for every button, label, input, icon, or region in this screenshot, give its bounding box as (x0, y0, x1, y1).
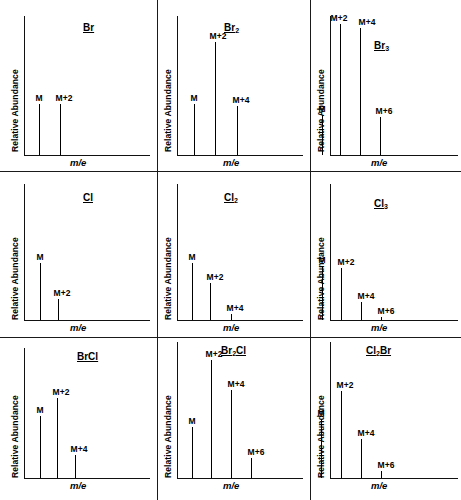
peak-label-m6: M+6 (376, 106, 393, 116)
peak-m2 (210, 283, 211, 320)
peak-m (321, 419, 322, 478)
x-axis-label: m/e (70, 157, 86, 168)
column-divider-2 (310, 0, 311, 171)
peak-m4 (360, 28, 361, 155)
peak-label-m2: M+2 (338, 257, 355, 267)
peak-m4 (231, 314, 232, 320)
peak-label-m: M (35, 93, 42, 103)
peak-label-m: M (188, 416, 195, 426)
y-axis-line (330, 342, 331, 478)
y-axis-label: Relative Abundance (10, 237, 20, 320)
y-axis-label: Relative Abundance (10, 69, 20, 152)
y-axis-line (177, 184, 178, 320)
column-divider-1 (157, 0, 158, 171)
panel-cl3: Relative Abundance m/e Cl3 M M+2 M+4 M+6 (306, 172, 461, 338)
peak-label-m2: M+2 (331, 13, 348, 23)
column-divider-2 (310, 338, 311, 500)
x-axis-line (24, 320, 150, 321)
peak-label-m2: M+2 (207, 272, 224, 282)
peak-m4 (75, 455, 76, 478)
panel-cl1: Relative Abundance m/e Cl M M+2 (0, 172, 153, 338)
x-axis-line (24, 155, 150, 156)
x-axis-line (330, 320, 458, 321)
peak-label-m: M (318, 104, 325, 114)
x-axis-label: m/e (223, 157, 239, 168)
peak-label-m4: M+4 (71, 444, 88, 454)
panel-br1: Relative Abundance m/e Br M M+2 (0, 0, 153, 172)
peak-m2 (211, 360, 212, 478)
peak-label-m: M (190, 93, 197, 103)
peak-label-m2: M+2 (337, 380, 354, 390)
peak-label-m4: M+4 (228, 379, 245, 389)
panel-br3: Relative Abundance m/e Br3 M M+2 M+4 M+6 (306, 0, 461, 172)
y-axis-line (24, 348, 25, 478)
peak-m (192, 427, 193, 478)
peak-label-m4: M+4 (227, 303, 244, 313)
peak-m (40, 416, 41, 478)
peak-m6 (380, 117, 381, 155)
species-label-cl2br: Cl2Br (366, 345, 391, 356)
y-axis-label: Relative Abundance (163, 237, 173, 320)
x-axis-line (24, 478, 150, 479)
peak-label-m6: M+6 (378, 460, 395, 470)
peak-label-m2: M+2 (53, 387, 70, 397)
x-axis-label: m/e (70, 480, 86, 491)
species-label-br1: Br (83, 22, 94, 33)
y-axis-label: Relative Abundance (163, 69, 173, 152)
x-axis-label: m/e (223, 322, 239, 333)
y-axis-line (177, 16, 178, 155)
peak-m2 (58, 299, 59, 320)
species-label-br2cl: Br2Cl (221, 345, 246, 356)
x-axis-label: m/e (371, 322, 387, 333)
column-divider-1 (157, 172, 158, 338)
species-label-cl3: Cl3 (374, 198, 388, 209)
peak-m4 (237, 106, 238, 155)
panel-grid: Relative Abundance m/e Br M M+2 Relative… (0, 0, 461, 500)
peak-label-m: M (318, 255, 325, 265)
column-divider-1 (157, 338, 158, 500)
panel-cl2: Relative Abundance m/e Cl2 M M+2 M+4 (153, 172, 306, 338)
peak-label-m6: M+6 (248, 447, 265, 457)
peak-m2 (60, 104, 61, 155)
peak-label-m2: M+2 (210, 31, 227, 41)
y-axis-label: Relative Abundance (316, 237, 326, 320)
peak-m2 (341, 268, 342, 320)
peak-m2 (340, 24, 341, 155)
peak-label-m2: M+2 (54, 288, 71, 298)
panel-cl2br: Relative Abundance m/e Cl2Br M M+2 M+4 M… (306, 338, 461, 500)
y-axis-line (24, 184, 25, 320)
column-divider-2 (310, 172, 311, 338)
peak-m (40, 263, 41, 320)
species-label-cl2: Cl2 (224, 192, 238, 203)
peak-label-m4: M+4 (233, 95, 250, 105)
x-axis-line (177, 155, 303, 156)
peak-m6 (381, 317, 382, 320)
row-divider-1 (0, 171, 461, 172)
peak-label-m6: M+6 (378, 306, 395, 316)
peak-label-m: M (317, 408, 324, 418)
x-axis-label: m/e (371, 480, 387, 491)
y-axis-line (330, 16, 331, 155)
peak-label-m4: M+4 (358, 291, 375, 301)
peak-m (322, 266, 323, 320)
species-label-brcl: BrCl (77, 351, 98, 362)
peak-m6 (381, 471, 382, 478)
peak-label-m: M (188, 252, 195, 262)
row-divider-2 (0, 337, 461, 338)
peak-label-m4: M+4 (359, 17, 376, 27)
x-axis-line (330, 155, 458, 156)
peak-m (194, 104, 195, 155)
peak-m (322, 115, 323, 155)
x-axis-line (177, 478, 303, 479)
peak-label-m4: M+4 (358, 428, 375, 438)
y-axis-line (177, 342, 178, 478)
x-axis-label: m/e (223, 480, 239, 491)
x-axis-label: m/e (70, 322, 86, 333)
y-axis-label: Relative Abundance (163, 395, 173, 478)
peak-m2 (57, 398, 58, 478)
peak-m4 (361, 439, 362, 478)
peak-label-m2: M+2 (56, 93, 73, 103)
x-axis-line (177, 320, 303, 321)
species-label-br3: Br3 (374, 40, 389, 51)
peak-m2 (341, 391, 342, 478)
